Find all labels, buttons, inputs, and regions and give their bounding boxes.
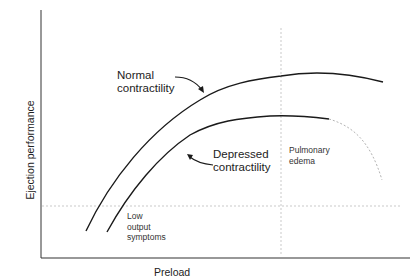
- depressed-label-line1: Depressed: [213, 148, 271, 161]
- pulmonary-label-line2: edema: [289, 156, 330, 167]
- depressed-contractility-label: Depressed contractility: [213, 148, 271, 174]
- normal-contractility-label: Normal contractility: [117, 69, 175, 95]
- low-output-line3: symptoms: [127, 232, 166, 243]
- pulmonary-edema-label: Pulmonary edema: [289, 145, 330, 166]
- depressed-curve-decline-dashed: [329, 119, 382, 180]
- frank-starling-diagram: [0, 0, 420, 280]
- y-axis-label: Ejection performance: [24, 100, 36, 199]
- pulmonary-label-line1: Pulmonary: [289, 145, 330, 156]
- low-output-symptoms-label: Low output symptoms: [127, 211, 166, 243]
- depressed-label-line2: contractility: [213, 161, 271, 174]
- low-output-line2: output: [127, 222, 166, 233]
- x-axis-label: Preload: [154, 266, 190, 278]
- normal-label-line1: Normal: [117, 69, 175, 82]
- depressed-label-arrow: [190, 157, 213, 165]
- low-output-line1: Low: [127, 211, 166, 222]
- normal-label-arrow: [175, 77, 202, 90]
- normal-label-line2: contractility: [117, 82, 175, 95]
